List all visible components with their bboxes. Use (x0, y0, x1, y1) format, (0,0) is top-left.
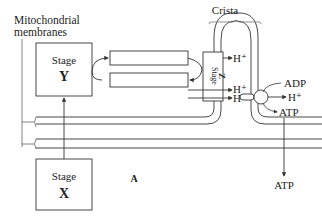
membranes-label-line2: membranes (14, 26, 68, 38)
arrow-y-to-carrier (92, 58, 108, 72)
outer-membrane (36, 139, 322, 148)
atp-arrow (263, 103, 277, 112)
atp-lower-label: ATP (274, 179, 294, 191)
adp-label: ADP (284, 77, 306, 89)
membranes-leader (22, 39, 36, 149)
h-plus-right: H⁺ (288, 91, 302, 103)
stage-x-label: Stage (52, 170, 77, 182)
membranes-label-line1: Mitochondrial (14, 14, 80, 26)
carrier-bottom (110, 73, 188, 87)
stage-x-letter: X (59, 186, 69, 201)
stage-z-letter: Z (217, 73, 227, 79)
arrow-carrier-return (92, 72, 102, 80)
region-a-label: A (130, 173, 138, 184)
mitochondria-diagram: Mitochondrial membranes Crista Stage Y S… (0, 0, 322, 224)
stage-y-label: Stage (52, 54, 77, 66)
crista-bracket (209, 20, 261, 24)
stage-x-box (36, 159, 92, 210)
arrow-carrier-loop (188, 58, 202, 80)
carrier-top (110, 51, 188, 65)
stage-y-letter: Y (59, 69, 69, 84)
atp-upper-label: ATP (279, 106, 299, 118)
h-plus-top: H⁺ (233, 52, 247, 64)
adp-arrow (263, 83, 281, 92)
crista-label: Crista (212, 4, 238, 16)
